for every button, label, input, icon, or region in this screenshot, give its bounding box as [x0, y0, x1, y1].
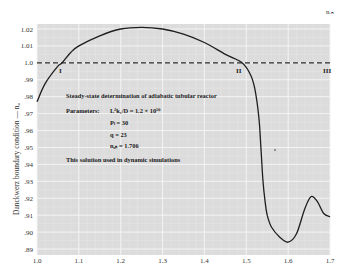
- stray-dot: [274, 149, 276, 151]
- param-ratio: L²k₁/D = 1.2 × 10¹⁰: [110, 107, 161, 114]
- y-tick-label: .91: [24, 212, 33, 220]
- y-tick-label: .92: [24, 195, 33, 203]
- chart: 1.021.011.0.99.98.97.96.95.94.93.92.91.9…: [0, 0, 350, 278]
- param-peclet: Pₗ = 30: [110, 119, 128, 126]
- y-tick-label: 1.01: [21, 42, 34, 50]
- x-axis-ticks: 1.01.11.21.31.41.51.61.7: [33, 257, 335, 265]
- y-axis-label: Danckwerz boundary condition — n₀: [12, 102, 21, 215]
- top-right-label: nᵢₙ: [326, 8, 334, 16]
- x-tick-label: 1.5: [242, 257, 251, 265]
- y-tick-label: .94: [24, 161, 33, 169]
- marker-I: I: [59, 67, 62, 75]
- x-tick-label: 1.1: [74, 257, 83, 265]
- param-q: q = 23: [110, 131, 127, 138]
- y-tick-label: .99: [24, 76, 33, 84]
- y-axis-ticks: 1.021.011.0.99.98.97.96.95.94.93.92.91.9…: [21, 26, 34, 254]
- y-tick-label: .90: [24, 229, 33, 237]
- x-tick-label: 1.7: [326, 257, 335, 265]
- y-tick-label: .96: [24, 127, 33, 135]
- y-tick-label: .89: [24, 246, 33, 254]
- y-tick-label: 1.02: [21, 26, 34, 34]
- simulation-note: This solution used in dynamic simulation…: [66, 156, 181, 163]
- x-tick-label: 1.2: [116, 257, 125, 265]
- y-tick-label: .97: [24, 110, 33, 118]
- parameters-label: Parameters:: [66, 107, 100, 114]
- marker-III: III: [323, 67, 331, 75]
- x-tick-label: 1.4: [200, 257, 209, 265]
- plot-area: [37, 24, 330, 255]
- x-tick-label: 1.6: [284, 257, 293, 265]
- y-tick-label: .98: [24, 93, 33, 101]
- y-tick-label: .93: [24, 178, 33, 186]
- y-tick-label: .95: [24, 144, 33, 152]
- param-n-in: n₀ₙ = 1.706: [110, 142, 139, 149]
- chart-title: Steady-state determination of adiabatic …: [66, 92, 217, 99]
- x-tick-label: 1.3: [158, 257, 167, 265]
- marker-II: II: [236, 67, 242, 75]
- x-tick-label: 1.0: [33, 257, 42, 265]
- y-tick-label: 1.0: [24, 59, 33, 67]
